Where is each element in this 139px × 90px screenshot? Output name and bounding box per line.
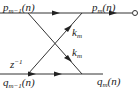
output-q-label: qm(n) bbox=[97, 76, 120, 89]
label-arg: (n) bbox=[22, 1, 35, 13]
label-arg: (n) bbox=[108, 75, 121, 87]
input-q-label: qm−1(n) bbox=[3, 77, 35, 90]
output-p-label: pm(n) bbox=[92, 2, 115, 15]
label-sub: m−1 bbox=[9, 82, 22, 90]
arrow-icon bbox=[64, 25, 72, 32]
coefficient-k-upper: km bbox=[72, 27, 82, 40]
arrow-icon bbox=[54, 72, 62, 77]
label-sub: m bbox=[77, 52, 82, 60]
output-node bbox=[133, 11, 138, 16]
label-sub: m−1 bbox=[9, 7, 22, 15]
label-sup: −1 bbox=[14, 58, 22, 66]
label-sub: m bbox=[77, 32, 82, 40]
label-arg: (n) bbox=[103, 1, 116, 13]
arrow-icon bbox=[52, 11, 60, 16]
label-arg: (n) bbox=[22, 76, 35, 88]
input-p-label: pm−1(n) bbox=[3, 2, 35, 15]
arrow-icon bbox=[64, 55, 72, 62]
delay-label: z−1 bbox=[10, 59, 23, 70]
coefficient-k-lower: km bbox=[72, 47, 82, 60]
